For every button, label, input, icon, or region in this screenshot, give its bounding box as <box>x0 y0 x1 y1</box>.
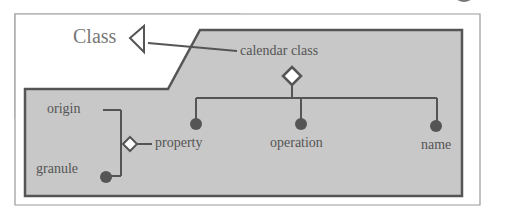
root-class-label: calendar class <box>240 43 318 59</box>
operation-label: operation <box>270 135 323 151</box>
name-node-icon <box>430 120 442 132</box>
property-label: property <box>155 135 202 151</box>
origin-label: origin <box>47 101 80 117</box>
granule-node-icon <box>100 171 112 183</box>
name-label: name <box>421 137 451 153</box>
class-legend-label: Class <box>73 25 116 48</box>
granule-label: granule <box>36 161 78 177</box>
operation-node-icon <box>295 118 307 130</box>
property-node-icon <box>190 118 202 130</box>
